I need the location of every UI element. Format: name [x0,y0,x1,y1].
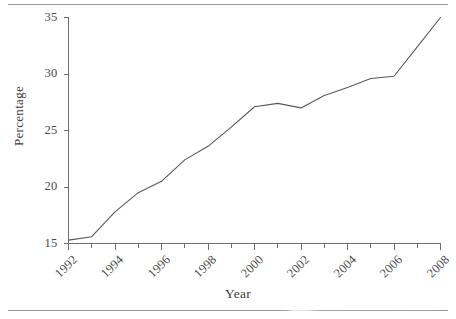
y-axis-tick-label: 15 [28,237,58,250]
y-axis-tick-label: 20 [28,180,58,193]
figure-page: 1520253035 19921994199619982000200220042… [0,0,456,319]
chart-axes [64,18,441,250]
y-axis-tick-label: 25 [28,124,58,137]
chart-series-line [69,18,441,241]
y-axis-title: Percentage [11,71,27,161]
y-axis-tick-label: 35 [28,11,58,24]
y-axis-tick-label: 30 [28,67,58,80]
line-chart-figure: 1520253035 19921994199619982000200220042… [0,0,456,319]
x-axis-title: Year [178,286,298,302]
data-line-percentage [69,18,441,241]
